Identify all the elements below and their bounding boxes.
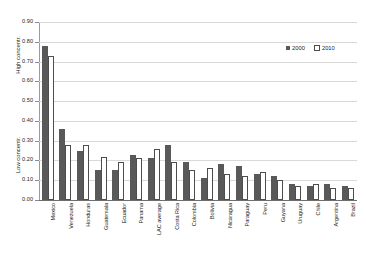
x-axis-line <box>39 200 357 201</box>
bar-2010-costa-rica <box>171 162 177 200</box>
bar-2010-venezuela <box>65 145 71 200</box>
bar-2010-paraguay <box>242 176 248 200</box>
x-tick-label-venezuela: Venezuela <box>68 203 74 229</box>
bar-2010-bolivia <box>207 168 213 200</box>
bar-group <box>198 22 216 200</box>
legend-item-2010: 2010 <box>314 45 335 51</box>
x-tick-label-bolivia: Bolivia <box>209 203 215 219</box>
bar-group <box>180 22 198 200</box>
bar-2010-panama <box>136 158 142 200</box>
x-tick-label-nicaragua: Nicaragua <box>227 203 233 228</box>
x-tick-label-brazil: Brazil <box>350 203 356 217</box>
bar-group <box>57 22 75 200</box>
x-tick-label-honduras: Honduras <box>85 203 91 227</box>
y-tick-mark <box>35 200 39 201</box>
bar-2010-guatemala <box>101 157 107 201</box>
bar-2010-uruguay <box>295 186 301 200</box>
x-tick-label-panama: Panama <box>138 203 144 224</box>
y-axis-title-high: High concentr. <box>15 25 21 85</box>
bar-group <box>127 22 145 200</box>
bar-group <box>110 22 128 200</box>
x-tick-label-lac-average: LAC average <box>156 203 162 235</box>
bar-2010-brazil <box>348 188 354 200</box>
legend-label: 2010 <box>322 45 335 51</box>
x-tick-label-chile: Chile <box>315 203 321 216</box>
bar-2010-nicaragua <box>224 174 230 200</box>
legend-label: 2000 <box>292 45 305 51</box>
x-tick-label-paraguay: Paraguay <box>244 203 250 227</box>
bar-2010-argentina <box>330 188 336 200</box>
bar-2010-colombia <box>189 170 195 200</box>
bar-group <box>339 22 357 200</box>
legend-item-2000: 2000 <box>286 45 305 51</box>
bar-group <box>92 22 110 200</box>
legend-swatch-2000 <box>286 46 290 50</box>
bar-group <box>74 22 92 200</box>
bar-group <box>233 22 251 200</box>
x-tick-label-guyana: Guyana <box>280 203 286 222</box>
bar-group <box>251 22 269 200</box>
x-tick-label-colombia: Colombia <box>191 203 197 226</box>
y-tick-label: 0.90 <box>0 18 33 24</box>
bar-group <box>269 22 287 200</box>
x-tick-label-costa-rica: Costa Rica <box>174 203 180 230</box>
y-tick-label: 0.00 <box>0 196 33 202</box>
y-axis-title-low: Low concentr. <box>15 125 21 185</box>
bar-2010-peru <box>260 172 266 200</box>
bar-2010-ecuador <box>118 162 124 200</box>
bar-2010-mexico <box>48 56 54 200</box>
x-tick-label-uruguay: Uruguay <box>297 203 303 224</box>
x-tick-label-argentina: Argentina <box>333 203 339 227</box>
bar-2010-honduras <box>83 145 89 200</box>
bar-group <box>39 22 57 200</box>
bar-group <box>216 22 234 200</box>
bar-2010-chile <box>313 184 319 200</box>
bar-chart: 0.900.800.700.600.500.400.300.200.100.00… <box>0 0 366 261</box>
y-tick-label: 0.40 <box>0 117 33 123</box>
chart-legend: 20002010 <box>286 45 335 51</box>
legend-swatch-2010 <box>314 45 320 51</box>
y-tick-label: 0.50 <box>0 97 33 103</box>
bar-group <box>145 22 163 200</box>
x-tick-label-ecuador: Ecuador <box>121 203 127 224</box>
bar-2010-lac-average <box>154 149 160 200</box>
bar-2010-guyana <box>277 180 283 200</box>
x-tick-label-guatemala: Guatemala <box>103 203 109 230</box>
x-tick-label-mexico: Mexico <box>50 203 56 220</box>
x-tick-label-peru: Peru <box>262 203 268 215</box>
bar-group <box>163 22 181 200</box>
